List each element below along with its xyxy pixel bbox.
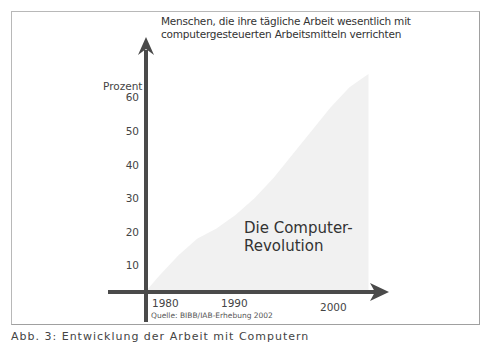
y-axis-label: Prozent xyxy=(103,80,142,92)
x-tick-label: 1980 xyxy=(152,297,179,309)
y-tick-label: 50 xyxy=(126,125,139,137)
y-tick-label: 60 xyxy=(126,91,139,103)
annotation-line-1: Die Computer- xyxy=(244,219,353,237)
area-series-computer-revolution xyxy=(145,74,368,292)
y-tick-label: 30 xyxy=(126,192,139,204)
source-note: Quelle: BIBB/IAB-Erhebung 2002 xyxy=(151,311,273,320)
x-tick-label: 1990 xyxy=(221,297,248,309)
y-tick-label: 40 xyxy=(126,159,139,171)
y-tick-label: 10 xyxy=(126,259,139,271)
y-tick-label: 20 xyxy=(126,226,139,238)
area-layer xyxy=(145,74,368,292)
annotation-line-2: Revolution xyxy=(244,237,323,255)
x-tick-label: 2000 xyxy=(320,301,347,313)
figure-caption-partial: Abb. 3: Entwicklung der Arbeit mit Compu… xyxy=(11,330,309,343)
